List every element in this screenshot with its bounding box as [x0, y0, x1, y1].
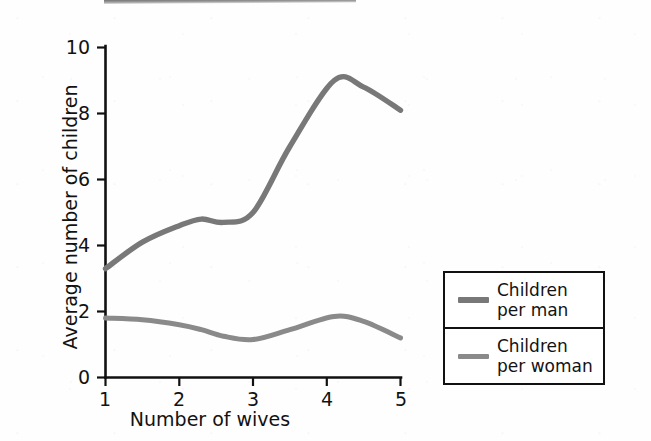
legend-line-swatch-children-per-man — [458, 297, 489, 303]
series-line-children-per-woman — [106, 316, 401, 340]
legend-item-children-per-man[interactable]: Children per man — [445, 273, 603, 327]
series-line-children-per-man — [106, 77, 401, 269]
line-chart: 0 2 4 6 8 10 1 2 3 4 5 Number of wives A… — [0, 0, 651, 441]
x-tick-label-3: 3 — [247, 390, 259, 409]
legend-label-women-line1: Children — [497, 336, 597, 356]
legend-line-swatch-children-per-woman — [458, 354, 489, 359]
legend-swatch-wrap-men — [453, 297, 493, 303]
x-tick-label-2: 2 — [173, 390, 185, 409]
chart-legend: Children per man Children per woman — [443, 271, 605, 385]
legend-label-men-line2: per man — [497, 300, 597, 320]
x-tick-label-5: 5 — [395, 390, 407, 409]
legend-label-women-line2: per woman — [497, 356, 597, 376]
y-axis-title: Average number of children — [59, 67, 81, 367]
legend-label-children-per-man: Children per man — [493, 280, 597, 320]
legend-label-men-line1: Children — [497, 280, 597, 300]
x-tick-label-1: 1 — [99, 390, 111, 409]
y-tick-label-10: 10 — [52, 38, 90, 57]
legend-item-children-per-woman[interactable]: Children per woman — [445, 327, 603, 383]
legend-label-children-per-woman: Children per woman — [493, 336, 597, 376]
legend-swatch-wrap-women — [453, 354, 493, 359]
x-axis-title: Number of wives — [0, 408, 420, 430]
x-tick-label-4: 4 — [321, 390, 333, 409]
y-tick-label-0: 0 — [56, 368, 90, 387]
